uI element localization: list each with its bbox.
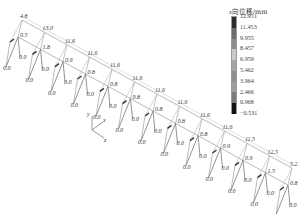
frame-member: [135, 82, 158, 94]
base-displacement-label: 0.0: [138, 139, 146, 145]
frame-member: [33, 32, 45, 54]
base-displacement-label: 0.0: [64, 79, 72, 85]
frame-member: [186, 136, 198, 166]
frame-member: [231, 160, 243, 190]
colorbar-tick-label: 6.959: [240, 55, 254, 62]
frame-member: [231, 165, 235, 190]
axis-x-label: x: [102, 117, 106, 123]
frame-member: [176, 123, 199, 135]
colorbar-tick-label: 2.466: [240, 88, 254, 95]
axis-z-label: z: [103, 137, 107, 143]
axis-y-label: y: [86, 111, 90, 117]
frame-member: [112, 69, 135, 81]
frame-member: [247, 143, 270, 155]
colorbar-segment: [232, 103, 236, 114]
base-displacement-label: 0.0: [183, 164, 191, 170]
frame-member: [90, 57, 113, 69]
colorbar-segment: [232, 92, 236, 103]
frame-member: [51, 62, 63, 92]
frame-member: [78, 57, 90, 79]
base-displacement-label: 0.0: [161, 151, 169, 157]
top-displacement-label: 11.6: [223, 124, 233, 130]
frame-member: [119, 104, 123, 129]
top-displacement-label: 11.6: [200, 112, 210, 118]
base-displacement-label: 0.0: [19, 54, 27, 60]
base-displacement-label: 0.0: [289, 202, 297, 208]
top-displacement-label: 5.2: [290, 161, 298, 167]
frame-member: [119, 99, 131, 129]
frame-member: [141, 116, 145, 141]
base-displacement-label: 0.0: [244, 177, 252, 183]
colorbar-segment: [232, 49, 236, 60]
frame-member: [164, 128, 168, 153]
top-displacement-label: 11.6: [110, 62, 120, 68]
colorbar-tick-label: 9.955: [240, 34, 254, 41]
frame-member: [213, 131, 225, 153]
joint-displacement-label: 1.5: [268, 168, 276, 174]
frame-member: [96, 86, 108, 116]
joint-displacement-label: 0.8: [178, 118, 186, 124]
frame-member: [55, 45, 67, 67]
base-displacement-label: 0.0: [93, 114, 101, 120]
base-displacement-label: 0.0: [273, 213, 281, 214]
frame-member: [86, 74, 109, 86]
frame-member: [190, 119, 202, 141]
frame-member: [45, 32, 68, 44]
frame-member: [157, 94, 180, 106]
colorbar-tick-label: 11.453: [240, 23, 257, 30]
colorbar-tick-label: 5.462: [240, 66, 254, 73]
base-displacement-label: 0.0: [3, 65, 11, 71]
frame-member: [186, 141, 190, 166]
frame-member: [225, 131, 248, 143]
frame-member: [96, 91, 100, 116]
frame-member: [6, 42, 10, 67]
colorbar-segment: [232, 71, 236, 82]
colorbar-tick-label: 0.968: [240, 98, 254, 105]
frame-member: [10, 20, 22, 42]
base-displacement-label: 0.0: [206, 176, 214, 182]
joint-displacement-label: 0.9: [223, 143, 231, 149]
colorbar-segment: [232, 60, 236, 71]
frame-member: [74, 74, 86, 104]
top-displacement-label: 11.6: [133, 75, 143, 81]
colorbar: [231, 16, 237, 114]
colorbar-legend: x向位移/mm 12.95111.4539.9558.4576.9595.462…: [229, 6, 308, 116]
frame-member: [18, 37, 41, 49]
frame-member: [63, 62, 86, 74]
frame-member: [41, 49, 64, 61]
frame-member: [254, 178, 258, 203]
frame-member: [108, 86, 131, 98]
frame-member: [254, 173, 266, 203]
top-displacement-label: 11.6: [65, 38, 75, 44]
frame-member: [29, 49, 41, 79]
joint-displacement-label: 1.8: [43, 44, 51, 50]
top-displacement-label: 11.6: [178, 99, 188, 105]
frame-member: [202, 119, 225, 131]
joint-displacement-label: 0.8: [155, 106, 163, 112]
frame-member: [141, 111, 153, 141]
base-displacement-label: 0.0: [48, 90, 56, 96]
frame-member: [51, 67, 55, 92]
base-displacement-label: 0.0: [26, 77, 34, 83]
frame-member: [198, 136, 221, 148]
frame-member: [100, 69, 112, 91]
frame-member: [209, 153, 213, 178]
frame-member: [153, 111, 176, 123]
frame-member: [235, 143, 247, 165]
top-displacement-label: 11.6: [88, 50, 98, 56]
frame-member: [29, 54, 33, 79]
frame-member: [270, 156, 293, 168]
frame-member: [145, 94, 157, 116]
top-displacement-label: 11.5: [245, 136, 255, 142]
colorbar-tick-label: 8.457: [240, 44, 254, 51]
joint-displacement-label: 0.8: [290, 180, 298, 186]
frame-member: [266, 173, 289, 185]
colorbar-segment: [232, 82, 236, 93]
frame-member: [180, 106, 203, 118]
base-displacement-label: 0.0: [154, 128, 162, 134]
frame-member: [258, 156, 270, 178]
frame-member: [280, 168, 292, 190]
base-displacement-label: 0.0: [251, 201, 259, 207]
joint-displacement-label: 0.8: [110, 81, 118, 87]
base-displacement-label: 0.0: [132, 116, 140, 122]
